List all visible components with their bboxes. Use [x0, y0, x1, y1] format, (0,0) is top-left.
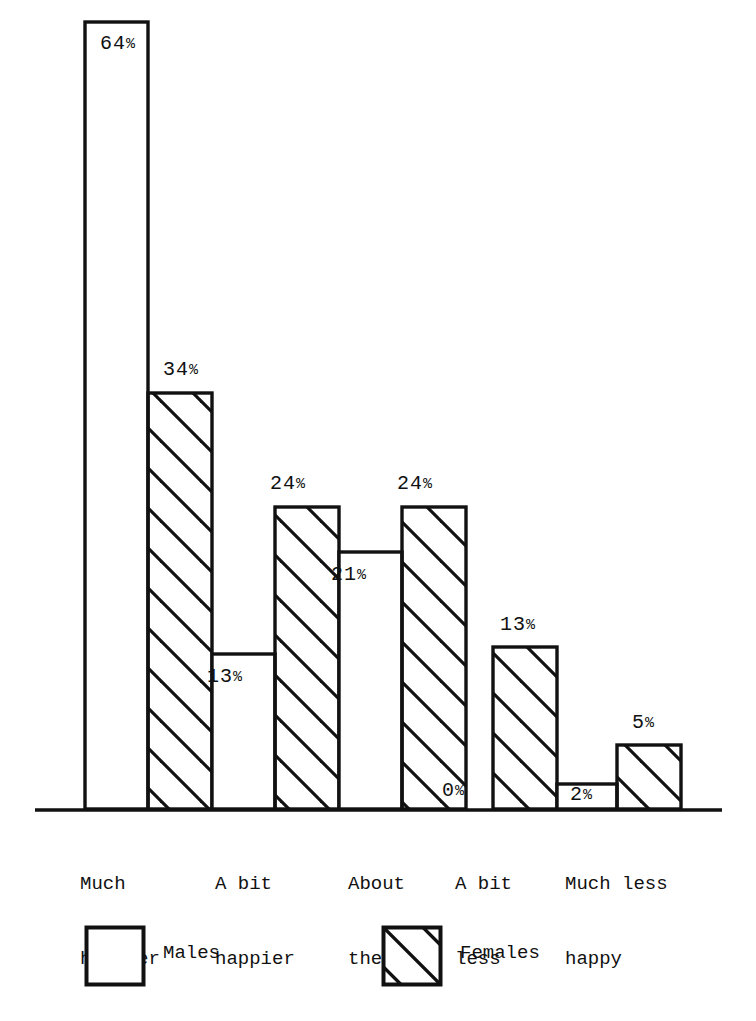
category-line: About [348, 872, 405, 897]
bar-chart-figure: 64% 34% 13% 24% 21% 24% 0% 13% 2% 5% Muc… [0, 0, 756, 1021]
legend-label-females: Females [460, 944, 540, 963]
value-label-males-a-bit-less-happy-now: 0% [442, 781, 464, 801]
value-label-females-much-less-happy-now: 5% [632, 713, 654, 733]
value-label-females-a-bit-less-happy-now: 13% [500, 615, 535, 635]
category-label-a-bit-less-happy-now: A bit less happy now [455, 822, 512, 1021]
category-line: happy [565, 947, 668, 972]
value-label-females-much-happier-now: 34% [163, 360, 198, 380]
bar-males-much-happier-now [85, 22, 148, 809]
category-line: A bit [215, 872, 295, 897]
category-line: A bit [455, 872, 512, 897]
category-line: Much less [565, 872, 668, 897]
legend-swatch-males [84, 925, 146, 987]
legend-label-males: Males [163, 944, 220, 963]
bar-males-about-the-same [339, 552, 402, 809]
category-label-much-less-happy-now: Much less happy now [565, 822, 668, 1021]
value-label-males-about-the-same: 21% [331, 565, 366, 585]
value-label-females-a-bit-happier-now: 24% [270, 474, 305, 494]
category-label-a-bit-happier-now: A bit happier now [215, 822, 295, 1021]
value-label-females-about-the-same: 24% [397, 474, 432, 494]
category-label-much-happier-now: Much happier now [80, 822, 160, 1021]
value-label-males-much-less-happy-now: 2% [570, 785, 592, 805]
legend-swatch-females [381, 925, 443, 987]
category-line: happier [215, 947, 295, 972]
category-line: Much [80, 872, 160, 897]
value-label-males-a-bit-happier-now: 13% [207, 667, 242, 687]
category-label-about-the-same: About the same [348, 822, 405, 1021]
value-label-males-much-happier-now: 64% [100, 34, 135, 54]
